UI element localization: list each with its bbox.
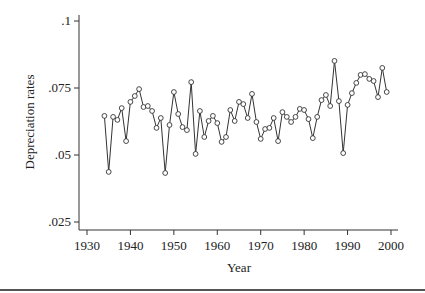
x-tick-label: 1980 [291,238,317,253]
data-point-marker [180,125,185,130]
data-point-marker [211,114,216,119]
data-point-marker [137,87,142,92]
data-point-marker [124,139,129,144]
data-point-marker [280,110,285,115]
data-point-marker [350,91,355,96]
x-tick-label: 1940 [117,238,143,253]
data-point-marker [245,116,250,121]
data-point-marker [102,114,107,119]
data-series [102,59,389,176]
y-tick-label: .025 [48,214,71,229]
data-point-marker [267,126,272,131]
data-point-marker [158,116,163,121]
x-tick-label: 1970 [248,238,274,253]
data-point-marker [119,106,124,111]
data-point-marker [241,102,246,107]
data-point-marker [115,118,120,123]
data-point-marker [106,170,111,175]
x-axis: 19301940195019601970198019902000 [74,230,404,253]
data-point-marker [198,109,203,114]
data-point-marker [293,115,298,120]
data-point-marker [154,126,159,131]
x-axis-title: Year [227,260,252,275]
data-point-marker [254,120,259,125]
data-point-marker [341,151,346,156]
data-point-marker [111,115,116,120]
data-point-marker [206,119,211,124]
data-point-marker [276,139,281,144]
bottom-rule [0,289,425,291]
data-point-marker [193,152,198,157]
x-tick-label: 1930 [74,238,100,253]
x-tick-label: 1960 [204,238,230,253]
data-point-marker [384,90,389,95]
data-point-marker [319,98,324,103]
x-tick-label: 1950 [161,238,187,253]
data-point-marker [380,66,385,71]
x-tick-label: 1990 [335,238,361,253]
data-point-marker [310,136,315,141]
y-axis: .025.05.075.1 [48,13,79,230]
data-point-marker [189,80,194,85]
y-tick-label: .075 [48,80,71,95]
data-point-marker [128,100,133,105]
data-point-marker [145,104,150,109]
data-point-marker [306,117,311,122]
data-point-marker [185,128,190,133]
data-point-marker [163,171,168,176]
data-point-marker [224,135,229,140]
data-point-marker [284,115,289,120]
data-point-marker [371,79,376,84]
data-point-marker [354,81,359,86]
data-point-marker [289,120,294,125]
y-axis-title: Depreciation rates [22,75,37,170]
data-point-marker [363,72,368,77]
y-tick-label: .1 [61,13,71,28]
data-point-marker [172,90,177,95]
data-point-marker [337,99,342,104]
line-chart: .025.05.075.1 19301940195019601970198019… [0,0,425,293]
data-point-marker [345,103,350,108]
data-point-marker [215,121,220,126]
x-tick-label: 2000 [378,238,404,253]
data-point-marker [132,94,137,99]
data-point-marker [271,116,276,121]
data-point-marker [315,115,320,120]
data-point-marker [232,119,237,124]
data-point-marker [150,109,155,114]
data-point-marker [202,135,207,140]
data-point-marker [376,95,381,100]
data-point-marker [228,108,233,113]
data-point-marker [167,123,172,128]
y-tick-label: .05 [55,147,71,162]
data-point-marker [258,137,263,142]
data-point-marker [328,104,333,109]
data-point-marker [332,59,337,64]
data-point-marker [250,92,255,97]
data-point-marker [302,108,307,113]
data-point-marker [219,140,224,145]
data-point-marker [176,112,181,117]
data-point-marker [324,93,329,98]
